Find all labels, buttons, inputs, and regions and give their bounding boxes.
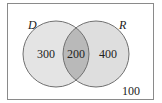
d-only-count: 300 (37, 47, 55, 61)
r-only-count: 400 (99, 47, 117, 61)
outside-count: 100 (122, 84, 140, 98)
venn-diagram: D R 300 200 400 100 (0, 0, 162, 103)
intersection-count: 200 (67, 47, 85, 61)
set-d-label: D (27, 18, 37, 32)
set-r-label: R (118, 18, 127, 32)
